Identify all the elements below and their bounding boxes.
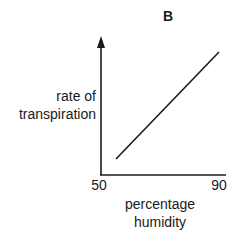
chart-title: B [158, 8, 178, 24]
y-axis-label: rate of transpiration [6, 87, 96, 123]
data-line [116, 52, 219, 159]
x-axis-label-line1: percentage [120, 195, 200, 213]
x-tick-90: 90 [204, 177, 234, 193]
x-axis-label-line2: humidity [120, 213, 200, 231]
y-axis-label-line2: transpiration [6, 105, 96, 123]
y-axis-label-line1: rate of [6, 87, 96, 105]
x-axis-label: percentage humidity [120, 195, 200, 231]
x-tick-50: 50 [84, 177, 114, 193]
y-axis-arrow-icon [97, 36, 105, 48]
